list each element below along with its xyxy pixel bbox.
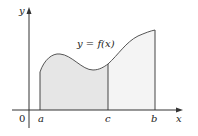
curve-label: y = f(x) — [76, 38, 115, 49]
y-axis-arrow-icon — [27, 7, 32, 14]
tick-label-a: a — [38, 113, 44, 124]
origin-label: 0 — [19, 113, 25, 124]
region-a-to-c — [40, 54, 108, 110]
x-axis-label: x — [176, 113, 182, 124]
tick-label-c: c — [105, 113, 111, 124]
region-c-to-b — [108, 30, 155, 110]
area-under-curve-diagram: y x 0 a c b y = f(x) — [0, 0, 198, 136]
y-axis-label: y — [18, 5, 25, 16]
x-axis-arrow-icon — [176, 108, 183, 113]
tick-label-b: b — [151, 113, 157, 124]
